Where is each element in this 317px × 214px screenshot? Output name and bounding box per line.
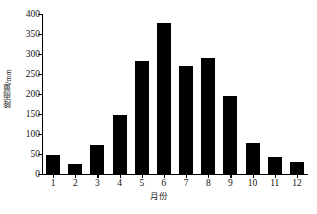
plot-area [42, 14, 308, 174]
y-tick-mark [38, 34, 43, 35]
y-tick-mark [38, 94, 43, 95]
bar [157, 23, 171, 174]
bar [90, 145, 104, 174]
y-tick-mark [38, 154, 43, 155]
bar [113, 115, 127, 174]
y-tick-mark [38, 14, 43, 15]
y-tick-mark [38, 174, 43, 175]
y-axis-tick-labels: 050100150200250300350400 [14, 8, 40, 180]
bar [135, 61, 149, 174]
y-tick-mark [38, 54, 43, 55]
y-tick-mark [38, 74, 43, 75]
y-axis-label: 降雨量/mm [2, 58, 14, 120]
bar [223, 96, 237, 174]
bar [246, 143, 260, 174]
bar [46, 155, 60, 174]
bar [68, 164, 82, 174]
bar [201, 58, 215, 174]
x-axis-label: 月份 [0, 189, 317, 201]
bar [290, 162, 304, 174]
y-tick-mark [38, 134, 43, 135]
y-tick-mark [38, 114, 43, 115]
bar [179, 66, 193, 174]
rainfall-bar-chart: 降雨量/mm 050100150200250300350400 12345678… [0, 0, 317, 214]
x-axis-line [42, 174, 308, 175]
bar [268, 157, 282, 174]
